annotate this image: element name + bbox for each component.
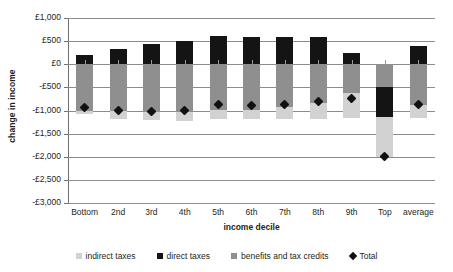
legend-item-label: benefits and tax credits: [241, 251, 328, 261]
gridline: [68, 180, 435, 181]
zero-line-tick: [285, 60, 286, 64]
bar-segment-benefits-and-tax-credits: [176, 64, 193, 112]
bar-segment-benefits-and-tax-credits: [376, 64, 393, 87]
gridline: [68, 18, 435, 19]
plot-area: [68, 18, 435, 203]
bar-segment-benefits-and-tax-credits: [343, 64, 360, 93]
direct-taxes-swatch: [157, 253, 163, 259]
y-axis-tick: [64, 18, 68, 19]
total-marker-swatch: [348, 252, 356, 260]
y-axis-tick-label: -£1,000: [3, 105, 61, 115]
benefits-and-tax-credits-swatch: [231, 253, 237, 259]
gridline: [68, 203, 435, 204]
indirect-taxes-swatch: [76, 253, 82, 259]
legend-item: direct taxes: [157, 251, 210, 261]
zero-line-tick: [218, 60, 219, 64]
y-axis-tick: [64, 180, 68, 181]
y-axis-tick-label: -£1,500: [3, 128, 61, 138]
x-axis-title: income decile: [68, 222, 435, 232]
y-axis-tick: [64, 64, 68, 65]
zero-line-tick: [252, 60, 253, 64]
zero-line-tick: [385, 60, 386, 64]
y-axis-tick: [64, 41, 68, 42]
zero-line-tick: [151, 60, 152, 64]
legend-item-label: Total: [360, 251, 378, 261]
y-axis-tick-label: -£3,000: [3, 197, 61, 207]
zero-line-tick: [85, 60, 86, 64]
y-axis-tick-label: £500: [3, 35, 61, 45]
y-axis-tick-label: -£2,500: [3, 174, 61, 184]
y-axis-tick: [64, 134, 68, 135]
y-axis-tick-label: -£2,000: [3, 151, 61, 161]
zero-line-tick: [185, 60, 186, 64]
bar-segment-benefits-and-tax-credits: [143, 64, 160, 112]
legend-item-label: indirect taxes: [86, 251, 136, 261]
zero-line-tick: [418, 60, 419, 64]
zero-line-tick: [118, 60, 119, 64]
y-axis-tick-label: -£500: [3, 81, 61, 91]
y-axis-tick-label: £1,000: [3, 12, 61, 22]
y-axis-tick: [64, 203, 68, 204]
bar-segment-benefits-and-tax-credits: [110, 64, 127, 111]
legend-item: indirect taxes: [76, 251, 136, 261]
chart-legend: indirect taxesdirect taxesbenefits and t…: [0, 251, 453, 261]
legend-item-label: direct taxes: [167, 251, 210, 261]
y-axis-tick: [64, 111, 68, 112]
bar-segment-direct-taxes: [376, 87, 393, 117]
chart-container: change in income £1,000£500£0-£500-£1,00…: [0, 0, 453, 272]
legend-item: Total: [350, 251, 378, 261]
zero-line-tick: [352, 60, 353, 64]
legend-item: benefits and tax credits: [231, 251, 328, 261]
y-axis-tick: [64, 157, 68, 158]
x-axis-tick-label: average: [388, 207, 448, 217]
y-axis-tick-label: £0: [3, 58, 61, 68]
y-axis-tick: [64, 87, 68, 88]
zero-line-tick: [318, 60, 319, 64]
